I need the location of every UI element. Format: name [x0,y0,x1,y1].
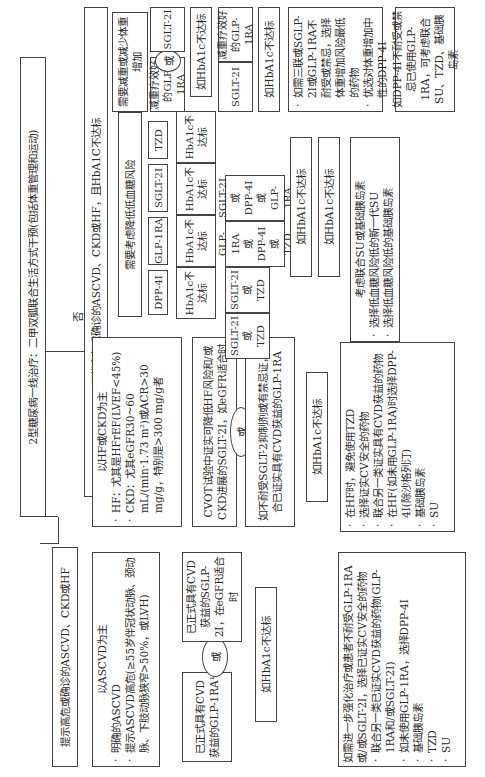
ascvd-glp1-box: 已正式具有CVD获益的GLP-1RA¹ [182,672,232,762]
drug-tzd: TZD [148,121,168,159]
ascvd-sglt2-text: 已正式具有CVD获益的SGLP-2I，在eGFR适合时 [184,556,240,638]
flowchart: 2型糖尿病一线治疗：二甲双胍联合生活方式干预(包括体重管理和运动) 提示高危或确… [0,0,485,777]
ascvd-hba1c-text: 如HbA1c不达标 [259,616,273,692]
hfckd-next-item: 选择证实CV安全的药物 [357,346,371,518]
drug-text: TZD [152,129,165,151]
ascvd-item: 明确的ASCVD [109,556,123,753]
drug-glp1: GLP-1RA [148,217,168,265]
ascvd-next-item: 联合另一类已证实CVD获益的药物(GLP-1RA和/或SGLT-2I) [369,556,397,753]
ascvd-header: 以ASCVD为主 [95,625,109,694]
ascvd-next-item: SU [439,556,453,753]
ascvd-next-item: 基础胰岛素 [411,556,425,753]
weight-hba1c: 如HbA1c不达标 [190,7,212,97]
hypo-final-lead: 考虑联合SU或基础胰岛素 [353,181,367,297]
hfckd-glp1-text: 如不耐受SGLT-2抑制剂或有禁忌证，联合已证实具有CVD获益的GLP-1RA [256,341,284,523]
branch-yes-box: 提示高危或确诊的ASCVD、CKD或HF [52,547,78,767]
hba1c-text: HbA1c不达标 [183,216,209,266]
or-text: 或 [208,652,223,662]
weight-header-box: 需要减重或减少体重增加 [112,12,148,112]
weight-final-item: 如需三联或SGLP-2I或GLP-1RA不耐受或禁忌，选择体重增加风险最低的药物 [291,11,361,98]
weight-hba1c-2: 如HbA1c不达标 [258,7,280,112]
weight-glp1-2: 减重疗效好的GLP-1RA [218,7,253,62]
hfckd-header: 以HF或CKD为主 [95,392,109,473]
weight-sglt2-2: SGLT-2I [218,62,253,112]
hypo-final-item: 选择低血糖风险低的基础胰岛素 [381,188,395,328]
hba1c-text: HbA1c不达标 [183,268,209,318]
hypo-header-text: 需要考虑降低低血糖风险 [123,160,137,270]
drug-sglt2: SGLT-2I [148,164,168,212]
hypo-header-box: 需要考虑降低低血糖风险 [118,112,142,317]
weight-sglt2: SGLT-2I [150,7,185,52]
hypo-hba1c: HbA1c不达标 [176,111,216,163]
ascvd-glp1-text: 已正式具有CVD获益的GLP-1RA¹ [193,676,221,758]
hfckd-next-item: SU [427,346,441,518]
combo-a: SGLT-2I [228,316,241,356]
weight-final-box: 如需三联或SGLP-2I或GLP-1RA不耐受或禁忌，选择体重增加风险最低的药物… [288,7,383,112]
combo-b: TZD [254,279,267,301]
weight-dpp4-text: 如DPP-4I不耐受或禁忌已使用GLP-1RA，可考虑联合SU、TZD、基础胰岛… [390,11,460,108]
hfckd-item: CKD：尤其eGFR30~60 mL/(min·1.73 m²)或ACR>30 … [123,341,165,513]
combo-or: 或 [241,285,254,295]
ascvd-next-box: 如需进一步强化治疗或患者不耐受GLP-1RA或/或SGLT-2I，选择已证实CV… [338,552,466,767]
hfckd-next-item: 基础胰岛素 [413,346,427,518]
combo-a: SGLT-2I [216,178,229,218]
ascvd-next-lead: 如需进一步强化治疗或患者不耐受GLP-1RA或/或SGLT-2I，选择已证实CV… [341,556,369,763]
hba1c-text: 如HbA1c不达标 [294,169,308,245]
branch-yes-text: 提示高危或确诊的ASCVD、CKD或HF [58,567,72,747]
combo-or: 或 [242,239,255,249]
combo-or: 或 [268,239,281,249]
or-oval: 或 [155,50,181,72]
hfckd-next-box: 在HF时，避免使用TZD 选择证实CV安全的药物 联合另一类证实具有CVD获益的… [340,342,455,532]
combo-cell: SGLT-2I或TZD [225,313,270,359]
hypo-final-box: 考虑联合SU或基础胰岛素 选择低血糖风险低的新一代SU 选择低血糖风险低的基础胰… [350,137,400,342]
weight-final-item: 优选对体重增加中性的DPP-4I [361,11,389,98]
hfckd-box: 以HF或CKD为主 HF：尤其是HFrEF(LVEF<45%) CKD：尤其eG… [92,337,182,527]
hypo-hba1c: HbA1c不达标 [176,267,216,319]
combo-cell: GLP-1RA或DPP-4I或TZD [225,221,285,267]
weight-dpp4-note: 如DPP-4I不耐受或禁忌已使用GLP-1RA，可考虑联合SU、TZD、基础胰岛… [395,7,455,112]
spacer [4,7,8,57]
hba1c-text: 如HbA1c不达标 [322,169,336,245]
ascvd-item: 提示ASCVD高危(≥55岁伴冠状动脉、颈动脉、下肢动脉狭窄>50%，或LVH) [123,556,151,753]
hfckd-next-item: 在HF(如未用GLP-1RA)时选择DPP-4I(除沙格列汀) [385,346,413,518]
title-box: 2型糖尿病一线治疗：二甲双胍联合生活方式干预(包括体重管理和运动) [20,57,46,517]
combo-or: 或 [255,193,268,203]
no-label: 否 [70,312,85,322]
hba1c-text: 如HbA1c不达标 [194,14,208,90]
drug-text: GLP-1RA [152,218,165,263]
weight-header-text: 需要减重或减少体重增加 [116,16,144,108]
drug-text: SGLT-2I [152,168,165,208]
hba1c-text: HbA1c不达标 [183,164,209,214]
drug-text: DPP-4I [152,275,165,310]
hfckd-hba1c-box: 如HbA1c不达标 [306,372,328,502]
hba1c-text: 如HbA1c不达标 [262,21,276,97]
combo-b: DPP-4I [242,181,255,216]
hfckd-next-item: 联合另一类证实具有CVD获益的药物 [371,346,385,518]
spacer [112,115,116,137]
combo-b: TZD [254,325,267,347]
combo-a: SGLT-2I [228,270,241,310]
ascvd-sglt2-box: 已正式具有CVD获益的SGLP-2I，在eGFR适合时 [182,552,242,642]
hba1c-text: HbA1c不达标 [183,112,209,162]
combo-or: 或 [241,331,254,341]
ascvd-next-item: 如未使用GLP-1RA，选择DPP-4I [397,556,411,753]
hfckd-sglt2-text: CVOT试验中证实可降低HF风险和/或CKD进展的SGLT-2I，如eGFR适合… [201,341,229,523]
weight-glp1-text: 减重疗效好的GLP-1RA [216,8,255,61]
or-oval: 或 [202,637,228,677]
hfckd-hba1c-text: 如HbA1c不达标 [310,399,324,475]
combo-cell: SGLT-2I或TZD [225,267,270,313]
combo-or: 或 [229,193,242,203]
hfckd-next-item: 在HF时，避免使用TZD [343,346,357,518]
combo-a: GLP-1RA [216,222,242,266]
hypo-hba1c: HbA1c不达标 [176,215,216,267]
title-text: 2型糖尿病一线治疗：二甲双胍联合生活方式干预(包括体重管理和运动) [26,130,40,445]
weight-sglt2-text: SGLT-2I [229,67,242,107]
hypo-hba1c: HbA1c不达标 [176,163,216,215]
or-text: 或 [161,56,176,66]
combo-cell: SGLT-2I或DPP-4I或GLP-1RA [225,175,285,221]
ascvd-next-item: TZD [425,556,439,753]
hypo-hba1c-2: 如HbA1c不达标 [290,137,312,277]
combo-b: DPP-4I [255,227,268,262]
hfckd-item: HF：尤其是HFrEF(LVEF<45%) [109,341,123,513]
weight-sglt2-text: SGLT-2I [161,10,174,50]
